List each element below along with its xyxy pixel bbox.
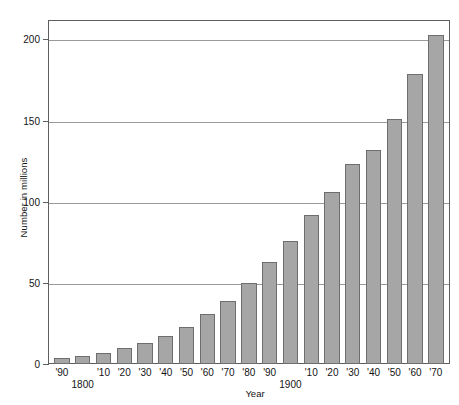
x-tick-label: '60 — [201, 367, 214, 378]
y-tick-label-0: 0 — [0, 359, 40, 370]
bar — [366, 150, 381, 364]
bar — [283, 241, 298, 364]
bar — [387, 119, 402, 364]
x-tick-label: '90 — [55, 367, 68, 378]
x-axis-title: Year — [205, 388, 305, 399]
bar — [220, 301, 235, 364]
x-tick-label: '20 — [325, 367, 338, 378]
y-tick-label-150: 150 — [0, 115, 40, 126]
y-tick-label-200: 200 — [0, 34, 40, 45]
x-tick-label: '50 — [388, 367, 401, 378]
x-tick-label: '30 — [346, 367, 359, 378]
x-tick-label: '80 — [242, 367, 255, 378]
x-tick-label: '70 — [222, 367, 235, 378]
bar — [158, 336, 173, 364]
x-tick-label: '40 — [159, 367, 172, 378]
bar — [304, 215, 319, 364]
bar — [96, 353, 111, 364]
x-tick-label: '20 — [118, 367, 131, 378]
y-tick-label-100: 100 — [0, 196, 40, 207]
bar — [345, 164, 360, 364]
bar — [428, 35, 443, 364]
population-bar-chart: Number in millions 050100150200 '90'10'2… — [0, 0, 459, 405]
x-tick-label: '10 — [305, 367, 318, 378]
bar — [200, 314, 215, 364]
x-tick-label: '90 — [263, 367, 276, 378]
bar — [407, 74, 422, 364]
x-tick-label: '70 — [429, 367, 442, 378]
x-tick-label: '60 — [409, 367, 422, 378]
bar — [75, 356, 90, 364]
x-tick-label: '10 — [97, 367, 110, 378]
y-tick-label-50: 50 — [0, 277, 40, 288]
y-tick-0 — [43, 364, 49, 365]
x-tick-label: '40 — [367, 367, 380, 378]
x-tick-label: '50 — [180, 367, 193, 378]
bar — [262, 262, 277, 364]
bar — [117, 348, 132, 364]
bar — [324, 192, 339, 364]
bar-series — [48, 20, 450, 364]
x-century-label: 1800 — [72, 379, 94, 390]
bar — [241, 283, 256, 364]
bar — [54, 358, 69, 364]
bar — [137, 343, 152, 364]
x-tick-label: '30 — [138, 367, 151, 378]
bar — [179, 327, 194, 364]
